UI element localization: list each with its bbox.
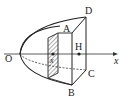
solid-of-revolution-diagram: O A B C D H x x bbox=[0, 0, 126, 104]
label-D: D bbox=[85, 5, 92, 16]
edge-B-C bbox=[72, 70, 86, 85]
parabola-lower-curve bbox=[20, 54, 72, 85]
edge-A-D bbox=[72, 17, 86, 33]
label-x-slice: x bbox=[49, 56, 54, 65]
edge-slice-B bbox=[48, 78, 72, 85]
label-C: C bbox=[88, 68, 95, 79]
label-A: A bbox=[63, 23, 71, 34]
label-O: O bbox=[5, 53, 12, 64]
label-B: B bbox=[68, 87, 75, 98]
point-H bbox=[77, 52, 80, 55]
label-x-axis: x bbox=[113, 55, 119, 66]
label-H: H bbox=[75, 41, 82, 52]
